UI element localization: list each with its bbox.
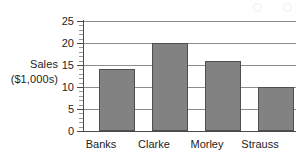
y-axis-title: Sales ($1,000s) — [0, 57, 58, 87]
y-tick-label-10: 10 — [52, 82, 74, 93]
bar-strauss[interactable] — [258, 87, 294, 131]
y-tick-label-0: 0 — [52, 126, 74, 137]
gridline-15 — [84, 65, 296, 66]
scan-artifact-one — [253, 3, 262, 12]
plot-area — [84, 21, 296, 131]
scan-artifact-two — [283, 3, 292, 12]
y-axis-title-line-2: ($1,000s) — [0, 72, 58, 87]
y-tick-label-15: 15 — [52, 60, 74, 71]
gridline-20 — [84, 43, 296, 44]
y-axis-title-line-1: Sales — [0, 57, 58, 72]
y-tick-label-20: 20 — [52, 38, 74, 49]
x-tick-label-morley: Morley — [178, 138, 236, 150]
x-tick-label-banks: Banks — [72, 138, 130, 150]
bar-morley[interactable] — [205, 61, 241, 131]
y-tick-label-5: 5 — [52, 104, 74, 115]
y-axis-tick-labels: 25 20 15 10 5 0 — [52, 0, 74, 164]
y-axis-line — [83, 20, 84, 132]
sales-bar-chart: Sales ($1,000s) 25 20 15 10 5 0 — [0, 0, 302, 164]
x-tick-label-clarke: Clarke — [125, 138, 183, 150]
x-tick-label-strauss: Strauss — [231, 138, 289, 150]
x-axis-line — [77, 131, 296, 132]
bar-banks[interactable] — [99, 69, 135, 131]
y-tick-label-25: 25 — [52, 16, 74, 27]
bar-clarke[interactable] — [152, 43, 188, 131]
gridline-25 — [84, 21, 296, 22]
